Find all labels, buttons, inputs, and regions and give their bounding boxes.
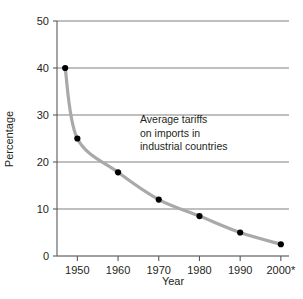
data-point-1980 bbox=[196, 213, 202, 219]
annotation-line-3: industrial countries bbox=[140, 140, 228, 152]
y-tick-label-10: 10 bbox=[37, 203, 49, 215]
y-tick-label-40: 40 bbox=[37, 62, 49, 74]
x-axis-title: Year bbox=[162, 275, 185, 287]
x-tick-label-1950: 1950 bbox=[65, 264, 89, 276]
data-point-1990 bbox=[237, 229, 243, 235]
data-point-1960 bbox=[115, 169, 121, 175]
x-tick-label-1960: 1960 bbox=[106, 264, 130, 276]
annotation-line-1: Average tariffs bbox=[140, 113, 207, 125]
tariff-line-chart: 195019601970198019902000* 01020304050 Ye… bbox=[0, 0, 303, 299]
x-tick-label-1980: 1980 bbox=[187, 264, 211, 276]
y-tick-label-50: 50 bbox=[37, 15, 49, 27]
y-tick-label-20: 20 bbox=[37, 156, 49, 168]
data-point-1970 bbox=[156, 197, 162, 203]
annotation-line-2: on imports in bbox=[140, 127, 200, 139]
data-point-1950 bbox=[74, 135, 80, 141]
y-tick-label-30: 30 bbox=[37, 109, 49, 121]
y-axis-title: Percentage bbox=[3, 111, 15, 167]
x-tick-label-1990: 1990 bbox=[228, 264, 252, 276]
chart-figure: 195019601970198019902000* 01020304050 Ye… bbox=[0, 0, 303, 299]
data-point-2000 bbox=[278, 241, 284, 247]
x-tick-label-2000: 2000* bbox=[266, 264, 295, 276]
data-point-1947 bbox=[62, 65, 68, 71]
y-tick-label-0: 0 bbox=[43, 250, 49, 262]
